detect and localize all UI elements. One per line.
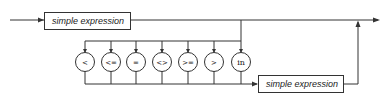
return-line — [344, 22, 359, 84]
operator-in: in — [232, 41, 251, 84]
svg-text:<>: <> — [156, 59, 168, 67]
arrow-right-icon — [252, 82, 258, 87]
svg-text:>=: >= — [182, 59, 194, 67]
box-2-label: simple expression — [266, 79, 338, 89]
svg-text:>: > — [211, 59, 217, 67]
exit-arrow-icon — [373, 18, 380, 23]
entry-arrow-icon — [38, 18, 44, 23]
simple-expression-box-1: simple expression — [45, 13, 131, 30]
operator-eq: = — [127, 41, 146, 84]
svg-text:in: in — [237, 58, 245, 67]
operator-le: <= — [102, 41, 121, 84]
simple-expression-box-2: simple expression — [259, 76, 344, 93]
svg-text:<: < — [82, 59, 88, 67]
syntax-diagram: simple expression < <= = <> — [0, 0, 384, 99]
arrow-up-icon — [356, 21, 361, 28]
box-1-label: simple expression — [52, 16, 124, 26]
operator-gt: > — [205, 41, 224, 84]
svg-text:=: = — [133, 59, 139, 67]
operator-ge: >= — [179, 41, 198, 84]
svg-text:<=: <= — [105, 59, 117, 67]
operator-ne: <> — [153, 41, 172, 84]
operator-lt: < — [76, 41, 95, 84]
